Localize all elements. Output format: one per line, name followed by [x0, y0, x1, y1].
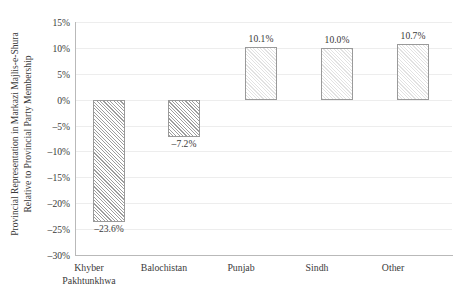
- y-tick-label: 5%: [24, 68, 70, 79]
- gridline: [75, 177, 452, 178]
- plot-area: –23.6% –7.2% 10.1% 10.0% 10.7%: [75, 22, 452, 255]
- bar-value-khyber-pakhtunkhwa: –23.6%: [74, 223, 144, 234]
- y-tick-label: –30%: [24, 250, 70, 261]
- y-axis-title-line-1: Provincial Representation in Markazi Maj…: [9, 32, 22, 236]
- bar-khyber-pakhtunkhwa[interactable]: [93, 100, 125, 222]
- y-tick-label: –10%: [24, 146, 70, 157]
- gridline: [75, 203, 452, 204]
- bar-value-other: 10.7%: [378, 30, 448, 41]
- y-tick-label: –20%: [24, 198, 70, 209]
- x-axis-line: [75, 255, 453, 256]
- y-tick-label: –25%: [24, 224, 70, 235]
- y-tick-label: –5%: [24, 120, 70, 131]
- y-axis-line: [75, 22, 76, 256]
- bar-value-balochistan: –7.2%: [149, 138, 219, 149]
- bar-other[interactable]: [397, 44, 429, 99]
- y-tick-label: 10%: [24, 42, 70, 53]
- bar-sindh[interactable]: [321, 48, 353, 100]
- bar-value-sindh: 10.0%: [302, 34, 372, 45]
- bar-balochistan[interactable]: [168, 100, 200, 137]
- gridline-zero: [75, 100, 452, 101]
- x-category-label-line-2: Pakhtunkhwa: [41, 275, 137, 288]
- y-tick-label: 0%: [24, 94, 70, 105]
- gridline: [75, 22, 452, 23]
- x-category-label-other: Other: [345, 262, 441, 275]
- y-axis-ticks: 15% 10% 5% 0% –5% –10% –15% –20% –25% –3…: [22, 22, 70, 255]
- bar-chart: Provincial Representation in Markazi Maj…: [0, 0, 466, 304]
- x-category-label-line-1: Other: [345, 262, 441, 275]
- gridline: [75, 151, 452, 152]
- gridline: [75, 126, 452, 127]
- y-tick-label: 15%: [24, 17, 70, 28]
- y-tick-label: –15%: [24, 172, 70, 183]
- bar-value-punjab: 10.1%: [226, 33, 296, 44]
- bar-punjab[interactable]: [245, 47, 277, 99]
